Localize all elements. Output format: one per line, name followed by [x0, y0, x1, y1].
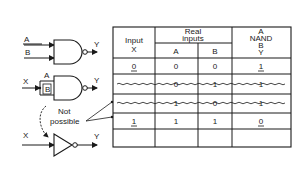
inversion-bubble [83, 86, 88, 91]
label-a: A [44, 71, 50, 80]
curved-arrow [40, 106, 48, 137]
cell-a: 0 [174, 62, 179, 71]
header-b: B [212, 47, 217, 56]
pointer-line-row3 [86, 117, 112, 121]
not-possible-annotation: Not possible [40, 101, 113, 137]
table-row-struck: 1 0 1 [117, 99, 285, 108]
header-nand-line4: Y [258, 48, 264, 57]
truth-table: Input X Real inputs A B A NAND B Y 0 0 0… [113, 27, 291, 147]
cell-b: 1 [213, 117, 218, 126]
label-x: X [23, 77, 29, 86]
inverter-body [54, 134, 72, 156]
header-real-line2: inputs [182, 34, 203, 43]
cell-y: 1 [259, 62, 264, 71]
nand-gate-tied: X A B Y [22, 71, 100, 100]
inversion-bubble [83, 50, 88, 55]
label-y: Y [94, 40, 100, 49]
inverter-gate: X Y [22, 131, 100, 156]
pointer-line-row2 [86, 102, 112, 121]
inversion-bubble [73, 143, 78, 148]
cell-x: 0 [132, 62, 137, 71]
cell-a: 1 [174, 117, 179, 126]
header-a: A [173, 47, 179, 56]
annotation-line1: Not [58, 107, 71, 116]
header-input-line1: Input [125, 36, 144, 45]
cell-x: 1 [132, 117, 137, 126]
label-y: Y [94, 132, 100, 141]
nand-body [54, 76, 82, 100]
cell-y: 0 [259, 117, 264, 126]
label-a: A [24, 35, 30, 44]
cell-b: 0 [213, 62, 218, 71]
header-input-line2: X [131, 45, 137, 54]
nand-as-inverter-diagram: A B Y X A B Y Not possible X [0, 0, 296, 171]
label-b: B [25, 48, 30, 57]
nand-gate-top: A B Y [23, 35, 100, 64]
label-y: Y [94, 76, 100, 85]
table-row-struck: 0 1 1 [117, 80, 285, 89]
label-b: B [45, 85, 50, 94]
label-x: X [23, 131, 29, 140]
annotation-line2: possible [50, 117, 80, 126]
nand-body [54, 40, 82, 64]
